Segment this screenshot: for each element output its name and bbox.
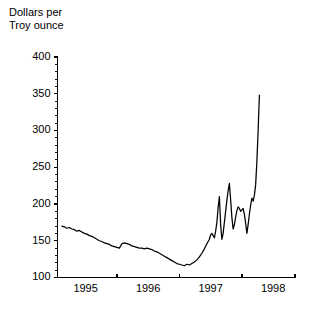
y-tick-label: 200	[32, 197, 50, 209]
x-tick-label: 1998	[261, 282, 285, 294]
y-tick-label: 100	[32, 270, 50, 282]
y-tick-label: 400	[32, 50, 50, 62]
y-tick-label: 350	[32, 87, 50, 99]
chart-plot-area: 100150200250300350400 1995199619971998	[0, 0, 315, 309]
x-tick-label: 1996	[136, 282, 160, 294]
x-axis-tick-labels: 1995199619971998	[73, 282, 285, 294]
data-series-line	[62, 95, 260, 266]
x-tick-label: 1997	[198, 282, 222, 294]
x-tick-label: 1995	[73, 282, 97, 294]
chart-figure: Dollars per Troy ounce 10015020025030035…	[0, 0, 315, 309]
y-tick-label: 250	[32, 160, 50, 172]
axes-group	[58, 57, 296, 278]
y-tick-label: 300	[32, 123, 50, 135]
y-tick-label: 150	[32, 234, 50, 246]
y-axis-tick-labels: 100150200250300350400	[32, 50, 50, 283]
